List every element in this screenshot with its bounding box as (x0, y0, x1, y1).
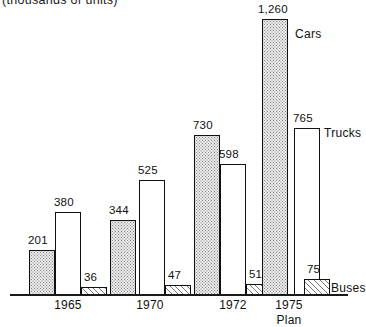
legend-label-cars: Cars (295, 27, 322, 41)
value-label-trucks-1975: 765 (293, 112, 313, 124)
axis-label-1970: 1970 (128, 298, 172, 312)
value-label-cars-1975: 1,260 (258, 3, 288, 15)
value-label-buses-1975: 75 (307, 263, 320, 275)
bar-cars-1972 (194, 135, 220, 295)
axis-label-1975-plan: Plan (267, 313, 311, 327)
axis-label-1965: 1965 (46, 298, 90, 312)
value-label-buses-1970: 47 (168, 269, 181, 281)
x-axis-baseline (10, 294, 348, 296)
bar-cars-1975 (262, 19, 288, 295)
axis-label-1972: 1972 (211, 298, 255, 312)
value-label-cars-1972: 730 (193, 119, 213, 131)
bar-cars-1965 (29, 250, 55, 295)
bar-cars-1970 (110, 220, 136, 295)
value-label-cars-1965: 201 (28, 234, 48, 246)
value-label-trucks-1965: 380 (54, 196, 74, 208)
axis-label-1975: 1975 Plan (267, 298, 311, 327)
value-label-buses-1965: 36 (84, 271, 97, 283)
bar-trucks-1972 (220, 164, 246, 295)
bar-trucks-1970 (139, 180, 165, 295)
value-label-trucks-1970: 525 (138, 164, 158, 176)
value-label-trucks-1972: 598 (219, 148, 239, 160)
value-label-buses-1972: 51 (249, 268, 262, 280)
legend-label-buses: Buses (331, 281, 366, 295)
bar-trucks-1965 (55, 212, 81, 295)
legend-label-trucks: Trucks (324, 126, 361, 140)
bar-buses-1975 (304, 279, 330, 295)
axis-label-1975-year: 1975 (275, 298, 303, 312)
value-label-cars-1970: 344 (109, 204, 129, 216)
